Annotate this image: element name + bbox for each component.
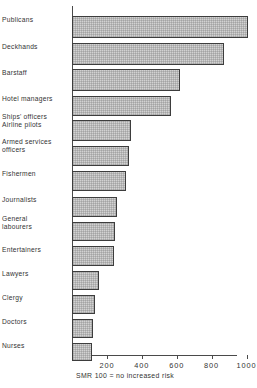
x-axis-tick-label: 1000 <box>236 361 256 370</box>
x-axis-tick-label: 600 <box>169 361 184 370</box>
bar <box>72 43 224 65</box>
smr-bar-chart: Publicans Deckhands Barstaff Hotel manag… <box>0 0 257 388</box>
category-label-journalists: Journalists <box>2 196 67 204</box>
bar <box>72 171 126 191</box>
x-axis-tick-label: 800 <box>204 361 219 370</box>
category-label-nurses: Nurses <box>2 342 67 350</box>
x-axis-tick <box>247 355 248 359</box>
bar <box>72 222 115 241</box>
bar <box>72 96 171 116</box>
category-label-doctors: Doctors <box>2 318 67 326</box>
bar <box>72 16 248 38</box>
bar <box>72 197 117 217</box>
bar <box>72 271 99 290</box>
bar <box>72 146 129 166</box>
x-axis-tick <box>177 355 178 359</box>
category-label-entertainers: Entertainers <box>2 246 67 254</box>
category-label-barstaff: Barstaff <box>2 69 67 77</box>
chart-caption: SMR 100 = no increased risk <box>76 372 174 379</box>
bar <box>72 319 93 338</box>
plot-area: 2004006008001000 <box>72 6 257 355</box>
category-labels: Publicans Deckhands Barstaff Hotel manag… <box>0 0 70 350</box>
bar <box>72 246 114 266</box>
category-label-deckhands: Deckhands <box>2 43 67 51</box>
category-label-hotel-managers: Hotel managers <box>2 95 67 103</box>
x-axis-tick <box>212 355 213 359</box>
bar <box>72 69 180 91</box>
x-axis-tick <box>107 355 108 359</box>
category-label-fishermen: Fishermen <box>2 170 67 178</box>
category-label-armed-services-officers: Armed services officers <box>2 138 67 154</box>
bar <box>72 120 131 141</box>
bar <box>72 343 92 361</box>
category-label-clergy: Clergy <box>2 294 67 302</box>
x-axis-tick-label: 400 <box>134 361 149 370</box>
category-label-lawyers: Lawyers <box>2 270 67 278</box>
category-label-ships-officers-airline-pilots: Ships' officers Airline pilots <box>2 113 67 129</box>
category-label-publicans: Publicans <box>2 16 67 24</box>
category-label-general-labourers: General labourers <box>2 215 67 231</box>
x-axis-tick <box>142 355 143 359</box>
bar <box>72 295 95 314</box>
x-axis-tick-label: 200 <box>99 361 114 370</box>
